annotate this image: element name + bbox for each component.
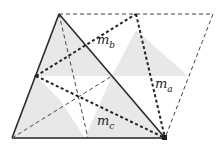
label-m-b: mb <box>97 33 115 50</box>
label-m-c: mc <box>97 114 114 131</box>
label-m-a: ma <box>155 77 173 94</box>
